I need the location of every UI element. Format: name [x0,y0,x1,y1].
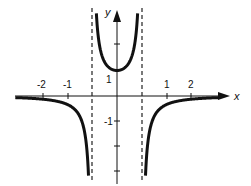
x-axis-arrow-icon [218,92,230,100]
axes: x y [15,6,240,184]
tick-labels: -2 -1 1 2 1 -1 [37,74,194,127]
curve-left-branch [15,98,88,176]
x-tick-label: -1 [63,79,72,90]
x-axis-label: x [233,90,240,102]
y-axis-arrow-icon [113,10,121,22]
x-tick-label: -2 [37,79,46,90]
x-tick-label: 1 [164,79,170,90]
y-tick-label: 1 [106,74,112,85]
function-graph: x y -2 -1 1 2 1 -1 [0,0,251,186]
y-axis-label: y [104,6,112,18]
curve-right-branch [146,98,219,176]
x-tick-label: 2 [188,79,194,90]
y-tick-label: -1 [104,116,113,127]
